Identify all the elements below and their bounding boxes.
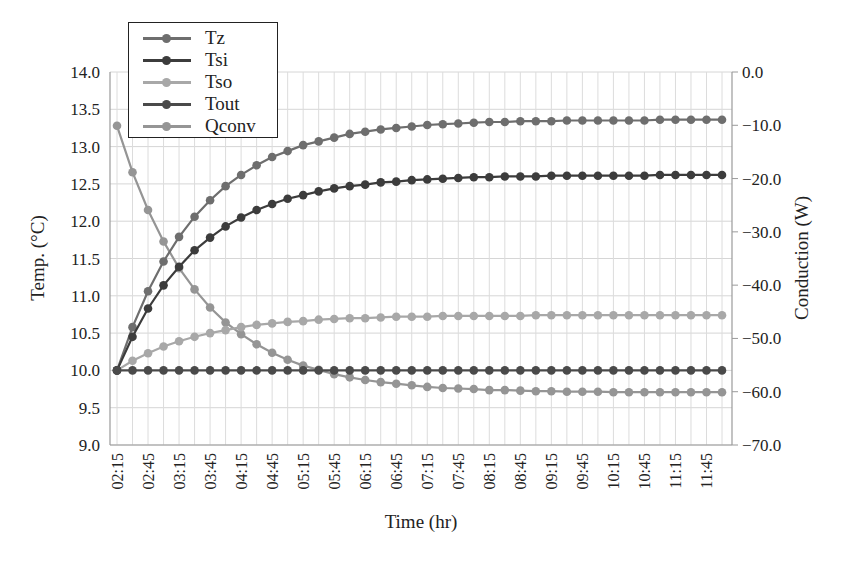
x-tick-label: 05:15 [295, 453, 312, 489]
legend-label: Tz [205, 27, 225, 49]
x-tick-label: 07:45 [450, 453, 467, 489]
y-tick-label: 11.5 [71, 250, 100, 269]
legend-item-tso: Tso [129, 71, 277, 93]
y2-tick-label: −50.0 [742, 329, 781, 348]
y-tick-label: 12.5 [70, 175, 100, 194]
x-tick-label: 06:15 [357, 453, 374, 489]
x-tick-label: 08:45 [512, 453, 529, 489]
y-tick-label: 10.5 [70, 324, 100, 343]
x-tick-label: 08:15 [481, 453, 498, 489]
y-tick-label: 11.0 [71, 287, 100, 306]
x-tick-label: 11:45 [698, 453, 715, 489]
series-tsi [113, 171, 727, 375]
legend-marker-icon [143, 49, 191, 71]
series-tz [113, 115, 727, 374]
series-tso [113, 311, 727, 375]
y-axis-left-ticks: 14.013.513.012.512.011.511.010.510.09.59… [70, 63, 100, 455]
x-axis-title: Time (hr) [385, 511, 458, 533]
x-tick-label: 02:15 [109, 453, 126, 489]
legend-marker-icon [143, 27, 191, 49]
y2-tick-label: −40.0 [742, 276, 781, 295]
y2-tick-label: −70.0 [742, 436, 781, 455]
x-axis-ticks: 02:1502:4503:1503:4504:1504:4505:1505:45… [109, 453, 715, 489]
y2-tick-label: −20.0 [742, 170, 781, 189]
legend-label: Qconv [205, 115, 256, 137]
y-tick-label: 10.0 [70, 361, 100, 380]
y-axis-right-ticks: 0.0−10.0−20.0−30.0−40.0−50.0−60.0−70.0 [732, 63, 781, 455]
y-tick-label: 12.0 [70, 212, 100, 231]
legend-label: Tout [205, 93, 240, 115]
legend-marker-icon [143, 71, 191, 93]
legend-marker-icon [143, 93, 191, 115]
x-tick-label: 09:15 [543, 453, 560, 489]
x-tick-label: 04:15 [233, 453, 250, 489]
y-axis-left-title: Temp. (°C) [27, 215, 49, 300]
legend-item-tout: Tout [129, 93, 277, 115]
y2-tick-label: −30.0 [742, 223, 781, 242]
x-tick-label: 02:45 [140, 453, 157, 489]
y2-tick-label: 0.0 [742, 63, 763, 82]
y-tick-label: 9.0 [79, 436, 100, 455]
legend-label: Tsi [205, 49, 228, 71]
x-tick-label: 05:45 [326, 453, 343, 489]
y2-tick-label: −60.0 [742, 383, 781, 402]
x-tick-label: 03:45 [202, 453, 219, 489]
legend: TzTsiTsoToutQconv [128, 22, 278, 138]
x-tick-label: 11:15 [667, 453, 684, 489]
legend-item-qconv: Qconv [129, 115, 277, 137]
series-tout [113, 366, 727, 375]
y2-tick-label: −10.0 [742, 116, 781, 135]
legend-item-tz: Tz [129, 27, 277, 49]
legend-marker-icon [143, 115, 191, 137]
x-tick-label: 10:15 [605, 453, 622, 489]
plot-series [113, 115, 727, 396]
x-tick-label: 10:45 [636, 453, 653, 489]
x-tick-label: 09:45 [574, 453, 591, 489]
series-qconv [113, 122, 727, 397]
x-tick-label: 03:15 [171, 453, 188, 489]
legend-label: Tso [205, 71, 232, 93]
x-tick-label: 07:15 [419, 453, 436, 489]
y-tick-label: 14.0 [70, 63, 100, 82]
y-tick-label: 9.5 [79, 399, 100, 418]
y-tick-label: 13.5 [70, 100, 100, 119]
y-tick-label: 13.0 [70, 138, 100, 157]
legend-item-tsi: Tsi [129, 49, 277, 71]
x-tick-label: 04:45 [264, 453, 281, 489]
x-tick-label: 06:45 [388, 453, 405, 489]
y-axis-right-title: Conduction (W) [791, 196, 813, 320]
